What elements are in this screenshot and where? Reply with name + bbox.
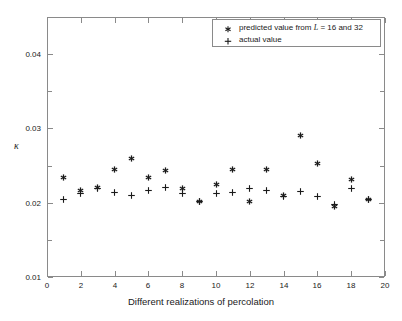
x-tick-major [317, 271, 318, 276]
x-tick-label: 18 [341, 281, 361, 290]
y-tick-major-right [379, 54, 384, 55]
y-tick-major [48, 54, 53, 55]
y-tick-major [48, 277, 53, 278]
x-tick-major [182, 271, 183, 276]
legend-label-predicted: predicted value from L = 16 and 32 [239, 23, 363, 32]
legend-entry-actual: actual value [213, 34, 380, 47]
chart-legend: predicted value from L = 16 and 32 actua… [212, 19, 381, 47]
y-tick-minor [48, 91, 52, 92]
x-tick-label: 8 [172, 281, 192, 290]
x-tick-major [81, 271, 82, 276]
x-tick-major [351, 271, 352, 276]
x-tick-major-top [47, 18, 48, 23]
y-tick-major-right [379, 203, 384, 204]
x-tick-label: 4 [105, 281, 125, 290]
y-tick-label: 0.02 [7, 199, 41, 208]
x-tick-major-top [148, 18, 149, 23]
x-tick-label: 0 [37, 281, 57, 290]
legend-label-actual: actual value [239, 35, 282, 44]
y-tick-minor-right [380, 166, 384, 167]
x-tick-label: 20 [375, 281, 395, 290]
x-tick-major [148, 271, 149, 276]
y-tick-major-right [379, 277, 384, 278]
y-tick-minor-right [380, 91, 384, 92]
x-axis-label: Different realizations of percolation [0, 296, 402, 307]
y-tick-minor-right [380, 17, 384, 18]
y-tick-label: 0.01 [7, 273, 41, 282]
x-tick-major [250, 271, 251, 276]
y-axis-label: κ [14, 140, 19, 151]
x-tick-major-top [182, 18, 183, 23]
x-tick-label: 14 [274, 281, 294, 290]
x-tick-label: 6 [138, 281, 158, 290]
plus-marker-icon [221, 34, 235, 47]
x-tick-label: 12 [240, 281, 260, 290]
x-tick-major [284, 271, 285, 276]
y-tick-major-right [379, 128, 384, 129]
x-tick-major [47, 271, 48, 276]
y-tick-minor [48, 240, 52, 241]
x-tick-major-top [81, 18, 82, 23]
x-tick-major [385, 271, 386, 276]
y-tick-minor [48, 166, 52, 167]
x-tick-major [115, 271, 116, 276]
x-tick-major [216, 271, 217, 276]
x-tick-label: 10 [206, 281, 226, 290]
x-tick-label: 16 [307, 281, 327, 290]
y-tick-minor-right [380, 240, 384, 241]
y-tick-major [48, 128, 53, 129]
chart-page: 0.010.020.030.0402468101214161820 κ Diff… [0, 0, 402, 321]
y-tick-major [48, 203, 53, 204]
y-tick-label: 0.03 [7, 124, 41, 133]
x-tick-major-top [385, 18, 386, 23]
y-tick-label: 0.04 [7, 50, 41, 59]
y-tick-minor [48, 17, 52, 18]
x-tick-major-top [115, 18, 116, 23]
plot-area [47, 17, 385, 277]
x-tick-label: 2 [71, 281, 91, 290]
